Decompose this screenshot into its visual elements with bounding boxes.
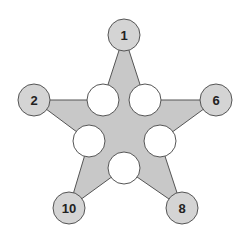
tip-node-top: 1 — [108, 19, 140, 51]
tip-node-bottom-left: 10 — [53, 192, 85, 224]
svg-text:10: 10 — [62, 201, 76, 216]
inner-node-middle-right[interactable] — [144, 125, 176, 157]
tip-node-left: 2 — [18, 84, 50, 116]
inner-node-bottom[interactable] — [108, 152, 140, 184]
star-diagram: 1 2 6 10 8 — [0, 0, 248, 243]
svg-text:2: 2 — [30, 93, 37, 108]
svg-text:8: 8 — [178, 201, 185, 216]
tip-node-right: 6 — [200, 84, 232, 116]
inner-node-upper-left[interactable] — [87, 84, 119, 116]
inner-node-upper-right[interactable] — [129, 84, 161, 116]
tip-node-bottom-right: 8 — [166, 192, 198, 224]
inner-node-middle-left[interactable] — [73, 125, 105, 157]
svg-text:1: 1 — [120, 28, 127, 43]
svg-text:6: 6 — [212, 93, 219, 108]
